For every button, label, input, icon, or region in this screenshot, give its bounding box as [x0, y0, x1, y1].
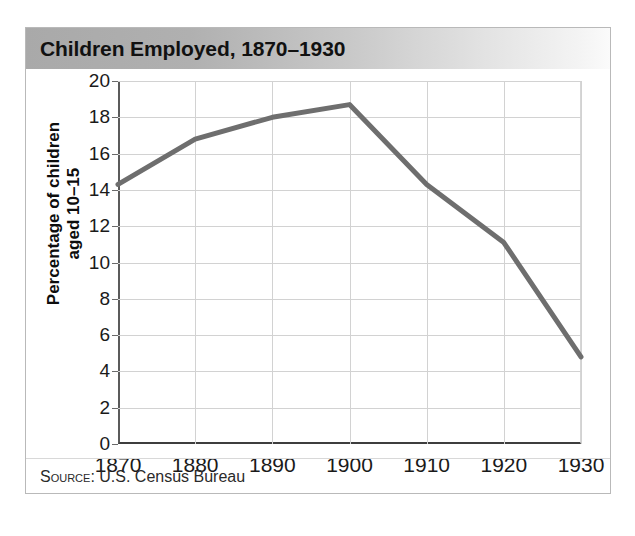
source-value: U.S. Census Bureau [95, 468, 245, 485]
y-tick-label: 2 [99, 397, 110, 419]
x-tick-label: 1890 [249, 453, 296, 477]
gridline-vertical [581, 81, 582, 444]
chart-header-bar: Children Employed, 1870–1930 [26, 28, 610, 69]
page-title: Children Employed, 1870–1930 [40, 37, 345, 61]
series-polyline [118, 105, 581, 357]
x-tick-label: 1930 [558, 453, 605, 477]
y-tick-label: 4 [99, 360, 110, 382]
y-tick-label: 8 [99, 288, 110, 310]
chart-body: Percentage of children aged 10–15 024681… [26, 69, 610, 495]
x-tick-label: 1920 [480, 453, 527, 477]
y-tick-label: 16 [89, 143, 110, 165]
y-tick-label: 14 [89, 179, 110, 201]
y-tick-label: 20 [89, 70, 110, 92]
y-tick-label: 12 [89, 215, 110, 237]
y-axis-title: Percentage of children aged 10–15 [44, 94, 83, 334]
y-tick-label: 18 [89, 106, 110, 128]
x-tick-label: 1900 [326, 453, 373, 477]
footer-divider [26, 458, 610, 459]
y-tick-mark [112, 444, 118, 445]
plot-frame: 02468101214161820 1870188018901900191019… [118, 81, 581, 444]
y-tick-label: 0 [99, 433, 110, 455]
y-axis-title-line-1: Percentage of children [44, 94, 64, 334]
source-note: Source: U.S. Census Bureau [40, 468, 245, 486]
chart-card: Children Employed, 1870–1930 Percentage … [25, 27, 611, 494]
source-label: Source: [40, 468, 95, 485]
y-tick-label: 6 [99, 324, 110, 346]
data-series-line [118, 81, 581, 444]
y-tick-label: 10 [89, 252, 110, 274]
x-tick-label: 1910 [403, 453, 450, 477]
y-axis-title-line-2: aged 10–15 [64, 94, 84, 334]
